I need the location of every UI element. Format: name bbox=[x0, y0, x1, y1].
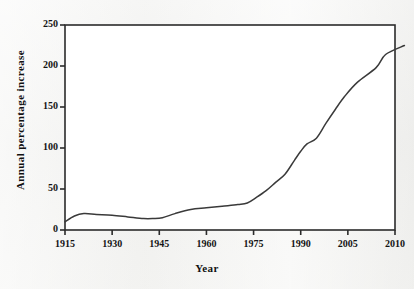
x-tick-label: 1990 bbox=[276, 238, 326, 249]
y-tick-label: 250 bbox=[24, 18, 58, 29]
y-tick-label: 100 bbox=[24, 141, 58, 152]
chart-figure: Annual percentage increase Year 05010015… bbox=[0, 0, 414, 289]
x-tick-label: 2010 bbox=[370, 238, 414, 249]
y-tick-label: 0 bbox=[24, 223, 58, 234]
x-tick-label: 1930 bbox=[87, 238, 137, 249]
plot-background bbox=[65, 25, 395, 230]
x-tick-label: 1915 bbox=[40, 238, 90, 249]
y-tick-label: 50 bbox=[24, 182, 58, 193]
x-tick-label: 1960 bbox=[181, 238, 231, 249]
x-tick-label: 1975 bbox=[229, 238, 279, 249]
y-tick-label: 150 bbox=[24, 100, 58, 111]
x-tick-label: 1945 bbox=[134, 238, 184, 249]
x-tick-label: 2005 bbox=[323, 238, 373, 249]
y-tick-label: 200 bbox=[24, 59, 58, 70]
